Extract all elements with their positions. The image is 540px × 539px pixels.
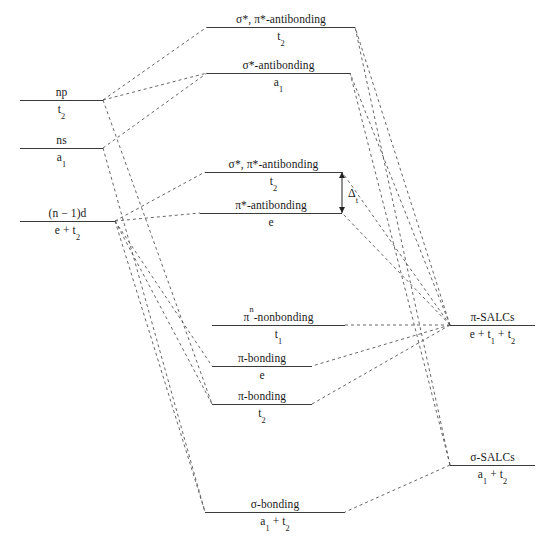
correlation-line	[103, 148, 205, 512]
mo-sigma-antibonding-a1-symmetry: a1	[274, 76, 283, 88]
mo-pi-bonding-t2-label: π-bonding	[238, 390, 286, 402]
delta-t-arrow	[339, 172, 345, 213]
correlation-line	[350, 73, 450, 465]
mo-sigma-antibonding-a1-label: σ*-antibonding	[242, 59, 314, 71]
salc-sigma-bar	[450, 465, 535, 466]
metal-np-symmetry: t2	[58, 103, 66, 115]
correlation-lines-layer	[0, 0, 540, 539]
mo-sigma-pi-antibonding-t2-upper-symmetry: t2	[277, 30, 285, 42]
salc-pi-label: π-SALCs	[470, 311, 514, 323]
correlation-line	[103, 100, 212, 404]
correlation-line	[115, 172, 205, 221]
correlation-line	[342, 172, 450, 325]
mo-pi-bonding-e-bar	[212, 366, 312, 367]
correlation-line	[103, 73, 207, 100]
correlation-line	[312, 325, 450, 404]
correlation-line	[342, 213, 450, 325]
mo-sigma-pi-antibonding-t2-upper-bar	[207, 27, 355, 28]
salc-pi-symmetry: e + t1 + t2	[470, 328, 515, 340]
metal-ns-symmetry: a1	[57, 151, 66, 163]
correlation-line	[345, 465, 450, 512]
metal-np-bar	[20, 100, 103, 101]
salc-sigma-symmetry: a1 + t2	[478, 468, 508, 480]
salc-sigma-label: σ-SALCs	[470, 451, 515, 463]
mo-pi-n-nonbonding-t1-label: πn-nonbonding	[243, 311, 313, 323]
mo-sigma-antibonding-a1-bar	[207, 73, 350, 74]
metal-ns-label: ns	[56, 134, 66, 146]
correlation-line	[355, 27, 450, 465]
mo-sigma-bonding-a1-t2-bar	[205, 512, 345, 513]
mo-sigma-bonding-a1-t2-symmetry: a1 + t2	[260, 515, 290, 527]
mo-sigma-pi-antibonding-t2-symmetry: t2	[270, 175, 278, 187]
mo-pi-n-nonbonding-t1-bar	[212, 325, 345, 326]
mo-sigma-pi-antibonding-t2-upper-label: σ*, π*-antibonding	[236, 13, 326, 25]
correlation-line	[103, 27, 207, 100]
mo-pi-bonding-e-label: π-bonding	[238, 352, 286, 364]
mo-sigma-pi-antibonding-t2-bar	[205, 172, 342, 173]
metal-np-label: np	[56, 86, 68, 98]
metal-n-1-d-label: (n − 1)d	[49, 207, 87, 219]
correlation-line	[350, 73, 450, 325]
correlation-line	[115, 221, 212, 366]
mo-pi-n-nonbonding-t1-symmetry: t1	[275, 328, 283, 340]
mo-pi-antibonding-e-bar	[200, 213, 342, 214]
mo-sigma-bonding-a1-t2-label: σ-bonding	[251, 498, 300, 510]
mo-pi-bonding-e-symmetry: e	[259, 369, 264, 381]
mo-pi-antibonding-e-label: π*-antibonding	[235, 199, 307, 211]
mo-sigma-pi-antibonding-t2-label: σ*, π*-antibonding	[229, 158, 319, 170]
correlation-line	[355, 27, 450, 325]
metal-n-1-d-symmetry: e + t2	[55, 224, 80, 236]
mo-pi-bonding-t2-symmetry: t2	[258, 407, 266, 419]
mo-pi-bonding-t2-bar	[212, 404, 312, 405]
salc-pi-bar	[450, 325, 535, 326]
metal-ns-bar	[20, 148, 103, 149]
delta-t-splitting: Δt	[348, 186, 358, 201]
correlation-line	[115, 221, 205, 512]
metal-n-1-d-bar	[20, 221, 115, 222]
correlation-line	[103, 73, 207, 148]
correlation-line	[312, 325, 450, 366]
mo-energy-diagram: npt2nsa1(n − 1)de + t2σ*, π*-antibonding…	[0, 0, 540, 539]
mo-pi-antibonding-e-symmetry: e	[268, 216, 273, 228]
